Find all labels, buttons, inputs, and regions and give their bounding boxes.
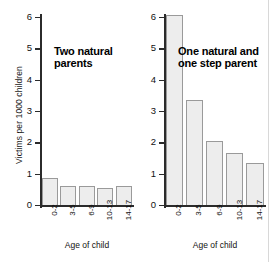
x-tick-label: 6-9: [87, 204, 96, 216]
x-tick-label-cell: 10-13: [226, 208, 244, 238]
x-tick-label: 14-17: [255, 200, 264, 220]
y-tick: [159, 17, 164, 18]
y-tick: [159, 80, 164, 81]
x-tick-label-cell: 0-2: [42, 208, 58, 238]
y-tick-label: 2: [19, 137, 32, 147]
x-tick-label-cell: 3-5: [60, 208, 76, 238]
scan-edge-line: [268, 0, 269, 262]
y-tick: [159, 111, 164, 112]
y-tick: [35, 205, 40, 206]
y-tick-label: 0: [19, 200, 32, 210]
bar-0-2: [42, 178, 58, 205]
x-tick-label-cell: 0-2: [166, 208, 184, 238]
bar-chart-figure: Victims per 1000 children 0-23-56-910-13…: [0, 0, 278, 262]
panel-title-left: Two natural parents: [54, 46, 134, 69]
x-tick-label: 10-13: [235, 200, 244, 220]
bar-10-13: [226, 153, 244, 205]
x-axis-label-right: Age of child: [164, 240, 266, 250]
panel-one-natural-one-step-parent: 0-23-56-910-1314-17 One natural and one …: [152, 0, 264, 262]
x-tick-label: 0-2: [50, 204, 59, 216]
bar-6-9: [206, 141, 224, 205]
y-tick: [35, 17, 40, 18]
x-tick-label-cell: 14-17: [246, 208, 264, 238]
y-tick: [35, 111, 40, 112]
y-tick: [159, 205, 164, 206]
y-tick-label: 4: [19, 75, 32, 85]
y-tick: [35, 174, 40, 175]
x-tick-label-cell: 14-17: [116, 208, 132, 238]
y-tick: [35, 80, 40, 81]
y-tick-label: 4: [143, 75, 156, 85]
y-tick: [159, 48, 164, 49]
x-tick-label: 14-17: [124, 200, 133, 220]
x-tick-label-cell: 3-5: [186, 208, 204, 238]
y-tick-label: 1: [143, 169, 156, 179]
x-tick-label-cell: 10-13: [97, 208, 113, 238]
panel-title-right: One natural and one step parent: [178, 46, 268, 69]
y-tick-label: 3: [19, 106, 32, 116]
y-tick-label: 0: [143, 200, 156, 210]
bar-3-5: [60, 186, 76, 205]
x-axis-label-left: Age of child: [40, 240, 134, 250]
y-tick: [159, 142, 164, 143]
x-tick-label: 10-13: [105, 200, 114, 220]
bar-14-17: [246, 163, 264, 205]
y-tick-label: 6: [143, 12, 156, 22]
x-tick-labels-right: 0-23-56-910-1314-17: [166, 208, 264, 238]
y-tick-label: 6: [19, 12, 32, 22]
x-tick-labels-left: 0-23-56-910-1314-17: [42, 208, 132, 238]
bar-6-9: [79, 186, 95, 205]
y-tick-label: 2: [143, 137, 156, 147]
y-tick-label: 5: [19, 43, 32, 53]
x-tick-label: 3-5: [194, 204, 203, 216]
y-tick: [159, 174, 164, 175]
x-tick-label: 6-9: [215, 204, 224, 216]
x-tick-label-cell: 6-9: [206, 208, 224, 238]
bar-0-2: [166, 15, 184, 205]
y-tick-label: 3: [143, 106, 156, 116]
y-tick-label: 5: [143, 43, 156, 53]
y-tick: [35, 142, 40, 143]
x-tick-label: 0-2: [174, 204, 183, 216]
y-tick: [35, 48, 40, 49]
x-tick-label: 3-5: [68, 204, 77, 216]
y-tick-label: 1: [19, 169, 32, 179]
bar-3-5: [186, 100, 204, 205]
x-tick-label-cell: 6-9: [79, 208, 95, 238]
panel-two-natural-parents: 0-23-56-910-1314-17 Two natural parents …: [28, 0, 132, 262]
